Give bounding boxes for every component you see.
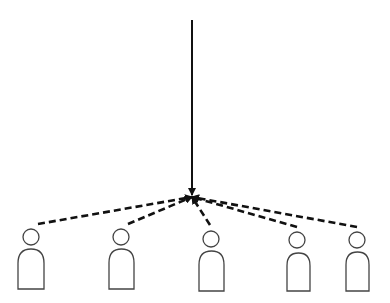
person-icon bbox=[287, 232, 310, 291]
person-body bbox=[287, 253, 310, 291]
diagram-canvas bbox=[0, 0, 390, 303]
dashed-arrow-2 bbox=[128, 197, 192, 224]
person-head bbox=[113, 229, 129, 245]
person-icon bbox=[18, 229, 44, 289]
dashed-arrow-5 bbox=[192, 197, 357, 227]
person-icon bbox=[346, 232, 369, 291]
dashed-arrows bbox=[38, 197, 357, 227]
dashed-arrow-1 bbox=[38, 197, 192, 224]
person-head bbox=[23, 229, 39, 245]
person-head bbox=[203, 231, 219, 247]
person-head bbox=[289, 232, 305, 248]
person-body bbox=[199, 251, 224, 291]
person-icon bbox=[199, 231, 224, 291]
person-body bbox=[109, 249, 134, 289]
person-icons bbox=[18, 229, 369, 291]
person-icon bbox=[109, 229, 134, 289]
person-body bbox=[346, 252, 369, 291]
person-body bbox=[18, 249, 44, 289]
person-head bbox=[349, 232, 365, 248]
